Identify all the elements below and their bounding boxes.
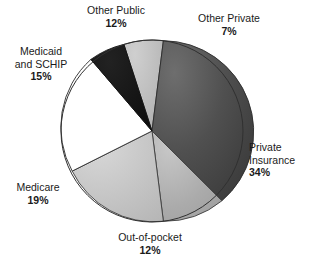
slice-label-other-public: Other Public 12% — [58, 4, 174, 29]
slice-label-medicaid-and-schip-value: 15% — [0, 70, 86, 83]
slice-label-other-private-value: 7% — [174, 25, 284, 38]
slice-label-medicaid-and-schip-text-line2: and SCHIP — [0, 58, 86, 71]
slice-label-private-insurance-text-line1: Private — [249, 141, 309, 154]
slice-label-medicare: Medicare 19% — [0, 181, 78, 206]
slice-label-medicaid-and-schip: Medicaid and SCHIP 15% — [0, 45, 86, 83]
slice-label-other-public-text: Other Public — [58, 4, 174, 17]
slice-label-out-of-pocket: Out-of-pocket 12% — [88, 231, 212, 256]
slice-label-private-insurance: Private Insurance 34% — [249, 141, 309, 179]
slice-label-other-private-text: Other Private — [174, 12, 284, 25]
slice-label-medicare-value: 19% — [0, 194, 78, 207]
pie-chart: Other Public 12% Other Private 7% Medica… — [0, 0, 309, 265]
slice-label-medicare-text: Medicare — [0, 181, 78, 194]
slice-label-private-insurance-text-line2: Insurance — [249, 154, 309, 167]
pie-chart-graphic — [0, 0, 309, 265]
slice-label-other-private: Other Private 7% — [174, 12, 284, 37]
slice-label-out-of-pocket-value: 12% — [88, 244, 212, 257]
slice-label-other-public-value: 12% — [58, 17, 174, 30]
slice-label-out-of-pocket-text: Out-of-pocket — [88, 231, 212, 244]
slice-label-private-insurance-value: 34% — [249, 166, 309, 179]
slice-label-medicaid-and-schip-text-line1: Medicaid — [0, 45, 86, 58]
